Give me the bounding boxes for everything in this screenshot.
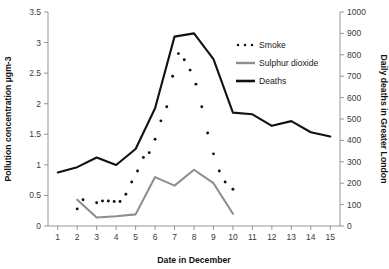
pollution-deaths-line-chart: 00.511.522.533.5 01002003004005006007008… bbox=[0, 0, 389, 269]
data-point bbox=[189, 69, 192, 72]
x-tick-label: 5 bbox=[133, 232, 138, 242]
y2-tick-label: 600 bbox=[347, 93, 361, 103]
y-tick-label: 0.5 bbox=[29, 190, 41, 200]
legend-dot-marker bbox=[244, 44, 247, 47]
legend-label-sulphur-dioxide: Sulphur dioxide bbox=[259, 58, 318, 68]
y2-tick-label: 100 bbox=[347, 200, 361, 210]
y2-tick-label: 700 bbox=[347, 71, 361, 81]
data-point bbox=[148, 151, 151, 154]
data-point bbox=[212, 152, 215, 155]
x-axis-ticks: 123456789101112131415 bbox=[55, 226, 335, 242]
x-tick-label: 15 bbox=[326, 232, 336, 242]
chart-legend: Smoke Sulphur dioxide Deaths bbox=[236, 40, 318, 86]
x-tick-label: 6 bbox=[153, 232, 158, 242]
y-tick-label: 2 bbox=[36, 99, 41, 109]
data-point bbox=[113, 200, 116, 203]
y2-tick-label: 300 bbox=[347, 157, 361, 167]
data-point bbox=[194, 83, 197, 86]
y2-tick-label: 200 bbox=[347, 178, 361, 188]
x-tick-label: 13 bbox=[287, 232, 297, 242]
data-point bbox=[95, 201, 98, 204]
data-point bbox=[130, 181, 133, 184]
data-point bbox=[119, 200, 122, 203]
legend-item-sulphur-dioxide: Sulphur dioxide bbox=[236, 58, 318, 68]
data-point bbox=[206, 132, 209, 135]
legend-label-smoke: Smoke bbox=[259, 40, 286, 50]
legend-dot-marker bbox=[237, 44, 240, 47]
x-tick-label: 12 bbox=[267, 232, 277, 242]
chart-container: 00.511.522.533.5 01002003004005006007008… bbox=[0, 0, 389, 269]
data-point bbox=[183, 58, 186, 61]
y2-tick-label: 1000 bbox=[347, 7, 366, 17]
y-tick-label: 1.5 bbox=[29, 129, 41, 139]
legend-item-smoke: Smoke bbox=[237, 40, 286, 50]
x-tick-label: 14 bbox=[306, 232, 316, 242]
data-point bbox=[200, 105, 203, 108]
y-axis-title: Pollution concentration µgm-3 bbox=[3, 56, 13, 181]
left-axis-ticks: 00.511.522.533.5 bbox=[29, 7, 48, 231]
data-point bbox=[171, 75, 174, 78]
right-axis-ticks: 01002003004005006007008009001000 bbox=[340, 7, 366, 231]
data-point bbox=[224, 181, 227, 184]
y-tick-label: 1 bbox=[36, 160, 41, 170]
x-tick-label: 7 bbox=[172, 232, 177, 242]
y2-tick-label: 0 bbox=[347, 221, 352, 231]
y-tick-label: 3 bbox=[36, 38, 41, 48]
x-axis-title: Date in December bbox=[157, 255, 231, 265]
x-tick-label: 2 bbox=[75, 232, 80, 242]
y2-tick-label: 500 bbox=[347, 114, 361, 124]
data-point bbox=[101, 199, 104, 202]
data-point bbox=[165, 105, 168, 108]
x-tick-label: 1 bbox=[55, 232, 60, 242]
data-point bbox=[107, 199, 110, 202]
x-tick-label: 11 bbox=[248, 232, 257, 242]
data-point bbox=[76, 207, 79, 210]
legend-item-deaths: Deaths bbox=[236, 76, 286, 86]
data-point bbox=[154, 138, 157, 141]
series-smoke bbox=[76, 52, 235, 210]
x-tick-label: 3 bbox=[94, 232, 99, 242]
x-tick-label: 4 bbox=[114, 232, 119, 242]
y-tick-label: 3.5 bbox=[29, 7, 41, 17]
x-tick-label: 10 bbox=[228, 232, 238, 242]
series-deaths bbox=[58, 33, 331, 172]
data-point bbox=[142, 156, 145, 159]
data-point bbox=[82, 198, 85, 201]
data-point bbox=[136, 170, 139, 173]
x-tick-label: 8 bbox=[192, 232, 197, 242]
data-point bbox=[159, 119, 162, 122]
y2-tick-label: 400 bbox=[347, 135, 361, 145]
y-tick-label: 0 bbox=[36, 221, 41, 231]
y2-axis-title: Daily deaths in Greater London bbox=[379, 55, 389, 184]
data-point bbox=[177, 52, 180, 55]
data-point bbox=[124, 193, 127, 196]
series-sulphur-dioxide bbox=[77, 170, 233, 218]
y2-tick-label: 800 bbox=[347, 50, 361, 60]
data-point bbox=[218, 170, 221, 173]
y2-tick-label: 900 bbox=[347, 28, 361, 38]
y-tick-label: 2.5 bbox=[29, 68, 41, 78]
data-point bbox=[231, 188, 234, 191]
legend-dot-marker bbox=[251, 44, 254, 47]
x-tick-label: 9 bbox=[211, 232, 216, 242]
legend-label-deaths: Deaths bbox=[259, 76, 286, 86]
